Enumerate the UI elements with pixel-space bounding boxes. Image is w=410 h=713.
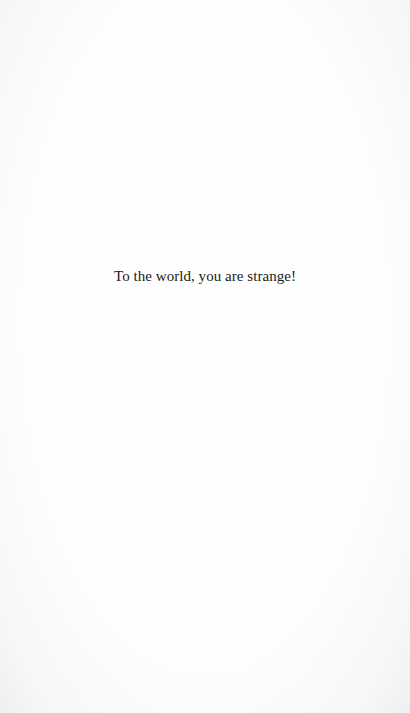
page-body-text: To the world, you are strange!: [0, 266, 410, 286]
book-page: To the world, you are strange!: [0, 0, 410, 713]
